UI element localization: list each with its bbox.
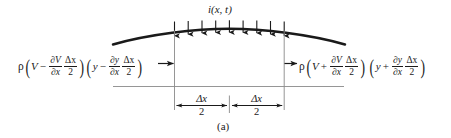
left-dV-denominator: ∂x <box>50 67 61 77</box>
left-delta-x-over-2-fraction-1: Δx 2 <box>64 56 77 77</box>
right-rho-symbol: ρ <box>299 61 305 73</box>
left-rparen-2: ) <box>138 60 143 74</box>
right-V-symbol: V <box>312 61 319 72</box>
dimension-left-numerator: Δx <box>195 94 208 105</box>
dimension-label-right: Δx 2 <box>249 94 264 117</box>
right-delta-x-over-2-fraction-1: Δx 2 <box>345 56 358 77</box>
left-force-expression: ρ ( V − ∂V ∂x Δx 2 ) ( y − ∂y ∂x Δx 2 ) <box>18 56 144 77</box>
left-delta-x-over-2-fraction-2: Δx 2 <box>122 56 135 77</box>
dimension-left-fraction: Δx 2 <box>195 94 208 117</box>
right-dx1-numerator: Δx <box>345 56 358 66</box>
right-rparen-2: ) <box>421 60 426 74</box>
right-lparen-2: ( <box>370 60 375 74</box>
right-dV-numerator: ∂V <box>330 56 343 66</box>
dimension-left-denominator: 2 <box>198 106 205 117</box>
right-dy-numerator: ∂y <box>392 56 403 66</box>
right-dy-denominator: ∂x <box>392 67 403 77</box>
right-lparen-1: ( <box>306 60 311 74</box>
dimension-right-numerator: Δx <box>250 94 263 105</box>
left-dx1-numerator: Δx <box>64 56 77 66</box>
left-rparen-1: ) <box>80 60 85 74</box>
left-sign-1: − <box>40 61 46 72</box>
left-y-symbol: y <box>93 61 98 72</box>
left-partial-y-partial-x-fraction: ∂y ∂x <box>109 56 120 77</box>
distributed-load-arrows <box>175 20 285 36</box>
left-V-symbol: V <box>31 61 38 72</box>
left-lparen-1: ( <box>25 60 30 74</box>
right-dx2-numerator: Δx <box>405 56 418 66</box>
left-sign-2: − <box>100 61 106 72</box>
dimension-right-denominator: 2 <box>253 106 260 117</box>
dimension-label-left: Δx 2 <box>194 94 209 117</box>
left-dy-denominator: ∂x <box>109 67 120 77</box>
left-dy-numerator: ∂y <box>109 56 120 66</box>
figure-distributed-load-element: i(x, t) ρ ( V − ∂V ∂x Δx 2 ) ( y − ∂y ∂x… <box>0 0 451 138</box>
right-delta-x-over-2-fraction-2: Δx 2 <box>405 56 418 77</box>
distributed-load-label: i(x, t) <box>208 4 232 15</box>
dimension-right-fraction: Δx 2 <box>250 94 263 117</box>
right-dx2-denominator: 2 <box>408 67 415 77</box>
right-y-symbol: y <box>376 61 381 72</box>
left-dV-numerator: ∂V <box>49 56 62 66</box>
right-force-expression: ρ ( V + ∂V ∂x Δx 2 ) ( y + ∂y ∂x Δx 2 ) <box>299 56 427 77</box>
right-dV-denominator: ∂x <box>331 67 342 77</box>
right-dx1-denominator: 2 <box>348 67 355 77</box>
left-dx2-numerator: Δx <box>122 56 135 66</box>
right-partial-V-partial-x-fraction: ∂V ∂x <box>330 56 343 77</box>
right-sign-1: + <box>321 61 327 72</box>
figure-caption: (a) <box>217 121 229 132</box>
left-partial-V-partial-x-fraction: ∂V ∂x <box>49 56 62 77</box>
left-dx2-denominator: 2 <box>125 67 132 77</box>
left-lparen-2: ( <box>87 60 92 74</box>
right-sign-2: + <box>383 61 389 72</box>
right-rparen-1: ) <box>361 60 366 74</box>
left-dx1-denominator: 2 <box>67 67 74 77</box>
left-rho-symbol: ρ <box>18 61 24 73</box>
right-partial-y-partial-x-fraction: ∂y ∂x <box>392 56 403 77</box>
